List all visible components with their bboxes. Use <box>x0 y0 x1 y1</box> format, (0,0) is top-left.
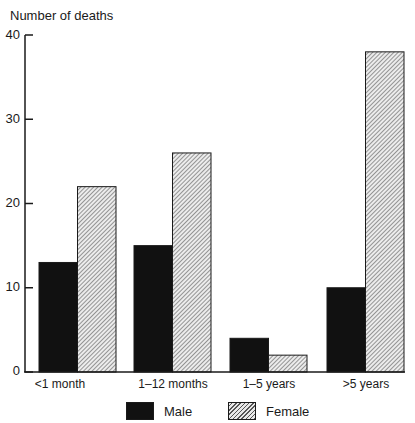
x-category-label: >5 years <box>316 377 415 391</box>
legend-label: Female <box>266 404 309 419</box>
x-category-label: 1–5 years <box>219 377 319 391</box>
bar-female <box>269 355 308 372</box>
bar-male <box>134 246 173 372</box>
legend-label: Male <box>164 404 192 419</box>
x-category-label: 1–12 months <box>123 377 223 391</box>
male-swatch-icon <box>126 402 154 420</box>
bar-male <box>39 262 78 372</box>
bar-female <box>78 187 117 372</box>
plot-area <box>0 0 415 423</box>
legend-item-female: Female <box>228 402 309 420</box>
legend: Male Female <box>0 398 415 422</box>
x-category-label: <1 month <box>10 377 110 391</box>
bar-male <box>327 288 366 372</box>
bar-female <box>366 52 405 372</box>
legend-item-male: Male <box>126 402 192 420</box>
bar-male <box>230 338 269 372</box>
bar-female <box>173 153 212 372</box>
female-swatch-icon <box>228 402 256 420</box>
